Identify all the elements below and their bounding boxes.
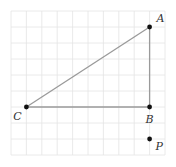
geometry-grid-diagram: ABCP — [0, 0, 176, 167]
point-p — [147, 137, 152, 142]
point-b — [147, 105, 152, 110]
point-label-c: C — [13, 110, 22, 123]
point-label-a: A — [156, 12, 165, 25]
point-labels: ABCP — [13, 12, 164, 153]
point-label-p: P — [155, 140, 164, 153]
point-a — [147, 25, 152, 30]
point-c — [24, 105, 29, 110]
point-label-b: B — [145, 113, 154, 126]
